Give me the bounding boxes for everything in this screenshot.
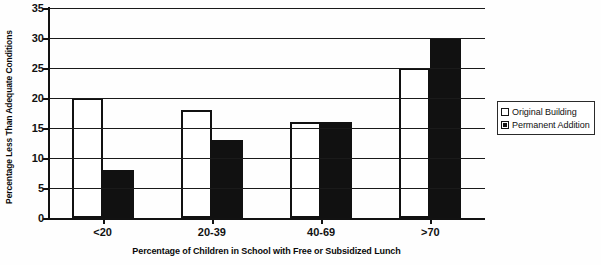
y-tick-label: 5 (18, 182, 44, 194)
plot-area (48, 8, 485, 218)
gridline (48, 158, 485, 159)
bar-chart: Percentage Less Than Adequate Conditions… (0, 0, 601, 265)
hollow-square-icon (501, 108, 509, 116)
x-axis-title: Percentage of Children in School with Fr… (48, 246, 485, 256)
y-tick-label: 30 (18, 32, 44, 44)
y-tick-label: 25 (18, 62, 44, 74)
y-tick-label: 0 (18, 212, 44, 224)
y-tick-mark (43, 188, 49, 190)
y-tick-mark (43, 158, 49, 160)
gridline (48, 98, 485, 99)
x-tick-mark (212, 218, 214, 224)
x-tick-mark (430, 218, 432, 224)
y-tick-mark (43, 128, 49, 130)
bar-original-building-3 (399, 68, 430, 218)
x-tick-mark (321, 218, 323, 224)
bar-original-building-1 (181, 110, 212, 218)
gridline (48, 68, 485, 69)
bar-permanent-addition-1 (212, 140, 243, 218)
y-axis-title: Percentage Less Than Adequate Conditions (2, 2, 16, 232)
y-tick-label: 20 (18, 92, 44, 104)
y-tick-mark (43, 8, 49, 10)
gridline (48, 38, 485, 39)
y-axis-tick-labels: 05101520253035 (18, 8, 44, 218)
x-category-label: <20 (93, 226, 112, 238)
y-tick-mark (43, 218, 49, 220)
gridline (48, 128, 485, 129)
y-tick-mark (43, 68, 49, 70)
legend-item: Original Building (501, 105, 590, 118)
legend: Original BuildingPermanent Addition (497, 101, 595, 135)
x-axis-line (48, 218, 485, 220)
bar-original-building-2 (290, 122, 321, 218)
y-tick-mark (43, 98, 49, 100)
x-axis-category-labels: <2020-3940-69>70 (48, 226, 485, 244)
filled-square-icon (501, 121, 509, 129)
y-tick-label: 15 (18, 122, 44, 134)
legend-item: Permanent Addition (501, 118, 590, 131)
gridline (48, 188, 485, 189)
bar-permanent-addition-0 (103, 170, 134, 218)
y-tick-label: 10 (18, 152, 44, 164)
x-category-label: 20-39 (198, 226, 226, 238)
gridline (48, 8, 485, 9)
bars-layer (48, 8, 485, 218)
x-category-label: >70 (421, 226, 440, 238)
legend-item-label: Original Building (512, 107, 577, 117)
legend-item-label: Permanent Addition (512, 120, 590, 130)
bar-permanent-addition-2 (321, 122, 352, 218)
x-category-label: 40-69 (307, 226, 335, 238)
x-tick-mark (103, 218, 105, 224)
y-tick-mark (43, 38, 49, 40)
y-tick-label: 35 (18, 2, 44, 14)
